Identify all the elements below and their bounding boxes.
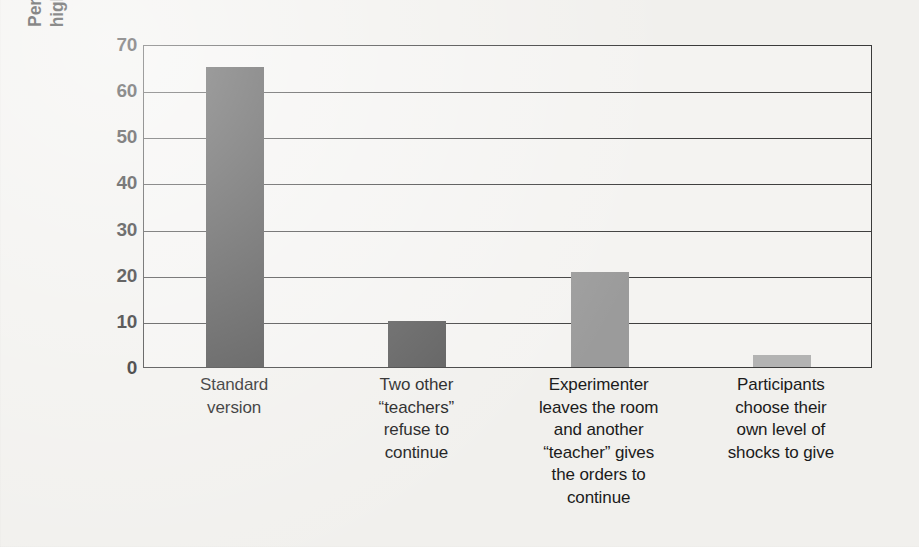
y-tick-label-70: 70 [93,34,137,56]
x-label-2-line-2: “teachers” [326,397,506,420]
y-tick-label-20: 20 [93,265,137,287]
x-label-3-line-5: the orders to [509,464,689,487]
x-label-3-line-2: leaves the room [509,397,689,420]
x-axis-category-labels: StandardversionTwo other“teachers”refuse… [143,374,872,544]
x-label-4-line-4: shocks to give [691,442,871,465]
y-tick-label-0: 0 [93,357,137,379]
x-label-2-line-3: refuse to [326,419,506,442]
plot-area [143,45,872,368]
x-label-1-line-2: version [144,397,324,420]
x-label-4-line-1: Participants [691,374,871,397]
x-label-3-line-6: continue [509,487,689,510]
x-label-3-line-1: Experimenter [509,374,689,397]
y-tick-label-40: 40 [93,172,137,194]
x-label-2-line-4: continue [326,442,506,465]
bar-4 [753,355,811,367]
y-tick-label-30: 30 [93,219,137,241]
y-axis-title-line-1: Percentage giving the [24,0,46,27]
x-label-4: Participantschoose theirown level ofshoc… [691,374,871,464]
x-label-4-line-3: own level of [691,419,871,442]
y-tick-label-10: 10 [93,311,137,333]
x-label-4-line-2: choose their [691,397,871,420]
bar-3 [571,272,629,367]
bar-1 [206,67,264,367]
x-label-2-line-1: Two other [326,374,506,397]
y-axis-tick-labels: 706050403020100 [82,0,137,547]
bar-series [144,46,871,367]
y-axis-title-line-2: highest level of shock [46,0,68,27]
x-label-3: Experimenterleaves the roomand another“t… [509,374,689,510]
bar-2 [388,321,446,367]
x-label-3-line-3: and another [509,419,689,442]
y-tick-label-60: 60 [93,80,137,102]
y-axis-title: Percentage giving the highest level of s… [14,0,78,102]
bar-chart-figure: Percentage giving the highest level of s… [0,0,919,547]
x-label-2: Two other“teachers”refuse tocontinue [326,374,506,464]
y-tick-label-50: 50 [93,126,137,148]
x-label-3-line-4: “teacher” gives [509,442,689,465]
x-label-1: Standardversion [144,374,324,419]
x-label-1-line-1: Standard [144,374,324,397]
